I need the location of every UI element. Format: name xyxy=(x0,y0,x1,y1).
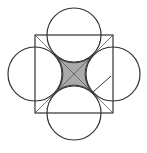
radius-segment xyxy=(93,76,111,92)
geometry-diagram xyxy=(0,0,147,153)
